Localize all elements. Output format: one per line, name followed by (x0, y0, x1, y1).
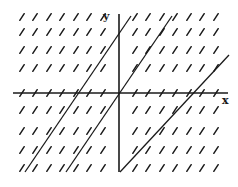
slope-dash (87, 29, 91, 36)
slope-dash (133, 107, 137, 114)
slope-dash (74, 29, 78, 36)
slope-dash (187, 128, 191, 135)
slope-dash (146, 65, 150, 72)
slope-dash (187, 14, 191, 21)
slope-dash (20, 165, 24, 172)
slope-dash (101, 47, 105, 54)
slope-dash (33, 147, 37, 154)
slope-dash (187, 47, 191, 54)
slope-dash (60, 14, 64, 21)
slope-dash (173, 47, 177, 54)
slope-dash (87, 107, 91, 114)
y-axis-label: y (102, 10, 110, 23)
slope-dash (133, 14, 137, 21)
slope-dash (20, 14, 24, 21)
slope-dash (87, 14, 91, 21)
slope-dash (173, 165, 177, 172)
slope-dash (187, 65, 191, 72)
slope-dash (74, 128, 78, 135)
slope-dash (60, 29, 64, 36)
slope-dash (20, 107, 24, 114)
slope-dash (47, 165, 51, 172)
slope-dash (160, 14, 164, 21)
slope-dash (60, 65, 64, 72)
solution-line-left (25, 16, 131, 172)
slope-dash (173, 29, 177, 36)
slope-dash (20, 65, 24, 72)
slope-dash (47, 147, 51, 154)
slope-dash (160, 47, 164, 54)
slope-dash (87, 47, 91, 54)
slope-dash (101, 128, 105, 135)
slope-dash (200, 14, 204, 21)
slope-dash (47, 65, 51, 72)
slope-dash (101, 165, 105, 172)
slope-dash (146, 147, 150, 154)
slope-dash (33, 107, 37, 114)
slope-dash (33, 47, 37, 54)
slope-dash (87, 165, 91, 172)
slope-dash (33, 165, 37, 172)
slope-dash (74, 47, 78, 54)
slope-dash (87, 65, 91, 72)
slope-dash (173, 65, 177, 72)
slope-dash (33, 65, 37, 72)
slope-dash (200, 65, 204, 72)
slope-dash (173, 128, 177, 135)
slope-dash (20, 147, 24, 154)
slope-dash (74, 147, 78, 154)
slope-dash (133, 128, 137, 135)
slope-dash (160, 65, 164, 72)
slope-dash (214, 147, 218, 154)
slope-dash (173, 147, 177, 154)
slope-dash (101, 107, 105, 114)
slope-dash (133, 147, 137, 154)
slope-dash (214, 14, 218, 21)
slope-dash (187, 147, 191, 154)
slope-dash (200, 47, 204, 54)
slope-dash (74, 14, 78, 21)
slope-dash (47, 29, 51, 36)
slope-dash (200, 165, 204, 172)
solution-lines (25, 16, 229, 172)
slope-dash (160, 147, 164, 154)
slope-dash (160, 107, 164, 114)
slope-dash (60, 165, 64, 172)
slope-dash (146, 165, 150, 172)
slope-dash (146, 107, 150, 114)
x-axis-label: x (222, 94, 229, 107)
slope-dash (20, 29, 24, 36)
slope-dash (101, 147, 105, 154)
slope-field-diagram: x y (0, 0, 238, 187)
slope-dash (146, 29, 150, 36)
slope-dash (173, 14, 177, 21)
slope-dash (214, 107, 218, 114)
slope-dash (200, 128, 204, 135)
slope-dash (47, 47, 51, 54)
slope-dash (133, 29, 137, 36)
slope-dash (87, 147, 91, 154)
slope-dash (33, 14, 37, 21)
slope-dash (101, 65, 105, 72)
slope-dash (214, 47, 218, 54)
slope-dash (200, 107, 204, 114)
slope-dash (60, 47, 64, 54)
slope-dash (87, 128, 91, 135)
slope-dash (214, 128, 218, 135)
slope-dash (133, 47, 137, 54)
solution-line-right (120, 55, 229, 172)
slope-dash (187, 165, 191, 172)
slope-dash (146, 128, 150, 135)
slope-dash (60, 128, 64, 135)
slope-dash (101, 29, 105, 36)
slope-dash (74, 65, 78, 72)
slope-dash (214, 165, 218, 172)
slope-dash (20, 47, 24, 54)
slope-dash (146, 14, 150, 21)
slope-dash (200, 29, 204, 36)
slope-dash (160, 165, 164, 172)
slope-dash (187, 107, 191, 114)
slope-dash (200, 147, 204, 154)
slope-dash (20, 128, 24, 135)
slope-dash (214, 29, 218, 36)
